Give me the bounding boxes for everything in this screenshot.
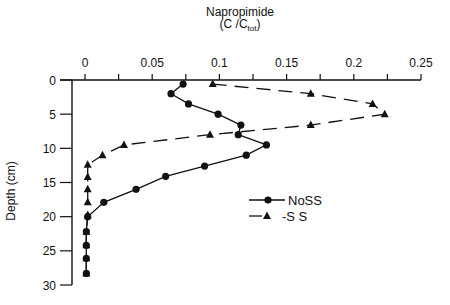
circle-marker xyxy=(100,199,107,206)
y-tick-label: 30 xyxy=(43,279,57,293)
circle-marker xyxy=(132,186,139,193)
series-ss xyxy=(82,80,388,277)
legend-triangle-icon xyxy=(263,212,271,220)
legend-item: NoSS xyxy=(249,193,322,208)
y-tick-label: 15 xyxy=(43,176,57,190)
legend-circle-icon xyxy=(264,196,271,203)
triangle-marker xyxy=(84,160,92,168)
circle-marker xyxy=(201,163,208,170)
circle-marker xyxy=(83,255,90,262)
x-tick-label: 0.1 xyxy=(211,56,228,70)
triangle-marker xyxy=(206,130,214,138)
series-noss xyxy=(83,81,270,277)
circle-marker xyxy=(237,122,244,129)
circle-marker xyxy=(83,228,90,235)
circle-marker xyxy=(83,270,90,277)
y-tick-label: 25 xyxy=(43,244,57,258)
series-line xyxy=(86,84,384,273)
circle-marker xyxy=(243,152,250,159)
y-tick-label: 0 xyxy=(49,74,56,88)
triangle-marker xyxy=(84,198,92,206)
circle-marker xyxy=(214,111,221,118)
legend-label: NoSS xyxy=(288,193,322,208)
x-tick-label: 0.25 xyxy=(409,56,433,70)
y-tick-label: 10 xyxy=(43,142,57,156)
circle-marker xyxy=(167,90,174,97)
x-tick-label: 0.05 xyxy=(141,56,165,70)
triangle-marker xyxy=(209,80,217,88)
x-tick-label: 0.2 xyxy=(345,56,362,70)
data-series xyxy=(82,80,388,277)
legend: NoSS-S S xyxy=(249,193,322,224)
triangle-marker xyxy=(98,151,106,159)
series-line xyxy=(86,84,266,273)
circle-marker xyxy=(180,81,187,88)
x-tick-label: 0.15 xyxy=(275,56,299,70)
x-tick-label: 0 xyxy=(82,56,89,70)
circle-marker xyxy=(83,242,90,249)
triangle-marker xyxy=(84,185,92,193)
circle-marker xyxy=(84,213,91,220)
y-tick-label: 20 xyxy=(43,210,57,224)
triangle-marker xyxy=(381,110,389,118)
depth-profile-chart: 00.050.10.150.20.25051015202530 NoSS-S S xyxy=(0,0,450,305)
circle-marker xyxy=(162,173,169,180)
legend-item: -S S xyxy=(249,209,308,224)
axes: 00.050.10.150.20.25051015202530 xyxy=(43,56,433,293)
legend-label: -S S xyxy=(282,209,308,224)
circle-marker xyxy=(263,141,270,148)
triangle-marker xyxy=(84,173,92,181)
circle-marker xyxy=(185,100,192,107)
y-tick-label: 5 xyxy=(49,108,56,122)
circle-marker xyxy=(235,131,242,138)
triangle-marker xyxy=(120,140,128,148)
